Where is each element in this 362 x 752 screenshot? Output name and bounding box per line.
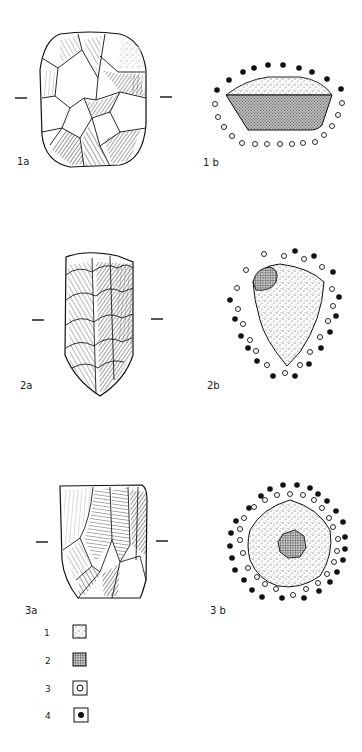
filled-dot [296, 65, 302, 71]
figure-3b-label: 3 b [210, 605, 226, 616]
filled-dot [279, 595, 285, 601]
open-dot [222, 125, 227, 130]
open-dot [265, 363, 270, 368]
open-dot [291, 593, 296, 598]
open-dot [330, 287, 335, 292]
filled-dot [340, 557, 346, 563]
open-dot [313, 140, 318, 145]
illustration-canvas: 1a 1 b 2a 2b [0, 0, 362, 752]
filled-dot [336, 294, 342, 300]
filled-dot [315, 491, 321, 497]
filled-dot [227, 297, 233, 303]
filled-dot [306, 361, 312, 367]
open-dot [246, 566, 251, 571]
open-dot [248, 338, 253, 343]
open-dot [263, 582, 268, 587]
open-dot [278, 142, 283, 147]
filled-dot [327, 329, 333, 335]
figure-1b-label: 1 b [203, 157, 219, 168]
filled-dot [251, 65, 257, 71]
filled-dot [233, 518, 239, 524]
filled-dot [301, 595, 307, 601]
filled-dot [245, 345, 251, 351]
figure-2b-label: 2b [207, 380, 220, 391]
figure-2a-drawing [32, 253, 163, 396]
open-dot [241, 322, 246, 327]
figure-3b-drawing [227, 482, 348, 601]
open-dot [241, 551, 246, 556]
open-dot [301, 493, 306, 498]
open-dot [274, 587, 279, 592]
open-dot [327, 516, 332, 521]
filled-dot [240, 69, 246, 75]
open-dot [325, 572, 330, 577]
open-dot [301, 141, 306, 146]
open-dot [213, 102, 218, 107]
open-dot [298, 363, 303, 368]
open-dot [282, 254, 287, 259]
filled-dot [226, 77, 232, 83]
open-dot [302, 257, 307, 262]
figure-1b-drawing [213, 62, 345, 146]
figure-3a-drawing [36, 485, 168, 598]
open-dot [330, 124, 335, 129]
filled-dot [334, 569, 340, 575]
filled-dot [229, 555, 235, 561]
filled-dot [280, 482, 286, 488]
legend-item-3-number: 3 [45, 684, 51, 694]
open-dot [335, 549, 340, 554]
filled-dot [227, 543, 233, 549]
open-dot [322, 133, 327, 138]
open-dot [253, 142, 258, 147]
open-dot [331, 304, 336, 309]
open-dot [318, 335, 323, 340]
legend [73, 625, 88, 722]
figure-3a-label: 3a [25, 605, 38, 616]
filled-dot [342, 546, 348, 552]
filled-dot [338, 86, 344, 92]
filled-dot [324, 498, 330, 504]
open-dot [332, 560, 337, 565]
filled-dot [340, 519, 346, 525]
filled-dot [246, 505, 252, 511]
open-dot [331, 525, 336, 530]
filled-dot [280, 62, 286, 68]
open-dot [308, 350, 313, 355]
filled-dot [330, 269, 336, 275]
open-dot [340, 101, 345, 106]
filled-dot [324, 76, 330, 82]
filled-dot [232, 316, 238, 322]
legend-item-4-number: 4 [45, 711, 51, 721]
open-dot [288, 492, 293, 497]
open-dot [240, 141, 245, 146]
open-dot [252, 505, 257, 510]
figure-1a-drawing [15, 32, 172, 167]
filled-dot [342, 534, 348, 540]
open-dot [336, 537, 341, 542]
legend-item-2-number: 2 [45, 656, 51, 666]
open-dot [235, 286, 240, 291]
open-dot [290, 142, 295, 147]
filled-dot [316, 588, 322, 594]
filled-dot [327, 579, 333, 585]
figure-1a-label: 1a [17, 156, 30, 167]
filled-dot [254, 358, 260, 364]
open-dot [230, 134, 235, 139]
filled-dot [309, 69, 315, 75]
filled-dot [265, 62, 271, 68]
open-dot [263, 498, 268, 503]
legend-swatch-stipple [73, 625, 86, 638]
filled-dot [238, 333, 244, 339]
figure-2b-drawing [227, 248, 342, 379]
open-dot [283, 371, 288, 376]
open-dot [326, 319, 331, 324]
filled-dot [318, 345, 324, 351]
open-dot [238, 538, 243, 543]
filled-dot [307, 485, 313, 491]
filled-dot [333, 313, 339, 319]
open-dot [275, 493, 280, 498]
open-dot [216, 115, 221, 120]
open-dot [255, 575, 260, 580]
legend-item-1-number: 1 [44, 628, 50, 638]
open-dot [304, 587, 309, 592]
